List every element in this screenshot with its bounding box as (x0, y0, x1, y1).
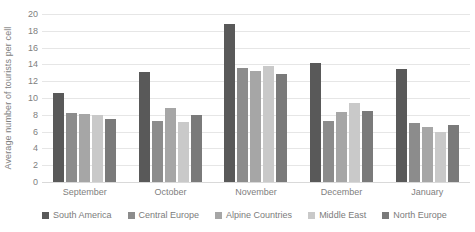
y-axis-tick-label: 10 (14, 94, 38, 103)
bar (276, 74, 287, 182)
bar (92, 115, 103, 182)
y-axis-tick-labels: 20181614121086420 (14, 0, 38, 196)
bar (79, 114, 90, 182)
bar (191, 115, 202, 182)
legend-swatch-icon (215, 212, 222, 219)
legend-swatch-icon (308, 212, 315, 219)
bar (152, 121, 163, 182)
x-axis-category-label: October (128, 185, 214, 199)
bar (323, 121, 334, 182)
legend-item[interactable]: Middle East (308, 210, 366, 220)
bar (237, 68, 248, 182)
legend-item[interactable]: South America (42, 210, 112, 220)
y-axis-tick-label: 0 (14, 178, 38, 187)
legend-label: North Europe (393, 210, 447, 220)
x-axis-category-label: September (42, 185, 128, 199)
y-axis-tick-label: 4 (14, 144, 38, 153)
bar-chart: Average number of tourists per cell 2018… (0, 0, 475, 232)
legend-label: Middle East (319, 210, 366, 220)
legend-swatch-icon (382, 212, 389, 219)
y-axis-tick-label: 8 (14, 110, 38, 119)
bar (396, 69, 407, 182)
y-axis-title-text: Average number of tourists per cell (3, 26, 13, 169)
legend-label: South America (53, 210, 112, 220)
bar (448, 125, 459, 182)
bar (224, 24, 235, 182)
bar-group (128, 14, 214, 182)
bar (53, 93, 64, 182)
bar (165, 108, 176, 182)
y-axis-tick-label: 6 (14, 127, 38, 136)
bar-group (213, 14, 299, 182)
gridline (42, 182, 470, 183)
bar (409, 123, 420, 182)
bar (336, 112, 347, 182)
y-axis-tick-label: 18 (14, 26, 38, 35)
bar (178, 122, 189, 182)
x-axis-category-label: January (384, 185, 470, 199)
legend-swatch-icon (42, 212, 49, 219)
legend-item[interactable]: Alpine Countries (215, 210, 292, 220)
y-axis-tick-label: 2 (14, 161, 38, 170)
bar (139, 72, 150, 182)
bar-groups (42, 14, 470, 182)
x-axis-category-label: November (213, 185, 299, 199)
y-axis-tick-label: 16 (14, 43, 38, 52)
x-axis-category-labels: SeptemberOctoberNovemberDecemberJanuary (42, 185, 470, 201)
x-axis-category-label: December (299, 185, 385, 199)
legend-label: Central Europe (139, 210, 200, 220)
legend-label: Alpine Countries (226, 210, 292, 220)
bar (362, 111, 373, 182)
bar (66, 113, 77, 182)
bar (263, 66, 274, 182)
bar (435, 132, 446, 182)
bar (105, 119, 116, 182)
bar (422, 127, 433, 182)
legend-item[interactable]: North Europe (382, 210, 447, 220)
legend-swatch-icon (128, 212, 135, 219)
bar (349, 103, 360, 182)
bar (250, 71, 261, 182)
bar-group (299, 14, 385, 182)
chart-legend: South AmericaCentral EuropeAlpine Countr… (42, 207, 462, 223)
bar-group (42, 14, 128, 182)
y-axis-tick-label: 14 (14, 60, 38, 69)
y-axis-tick-label: 20 (14, 10, 38, 19)
bar (310, 63, 321, 182)
y-axis-tick-label: 12 (14, 77, 38, 86)
legend-item[interactable]: Central Europe (128, 210, 200, 220)
bar-group (384, 14, 470, 182)
